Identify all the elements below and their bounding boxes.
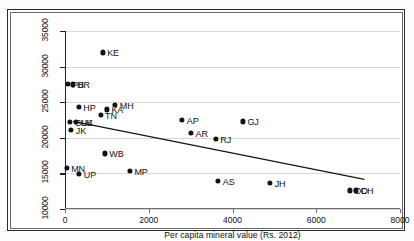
data-point-label-mp: MP [134,167,147,177]
data-point-mn[interactable] [64,165,69,170]
y-tick-label-35000: 35000 [40,13,50,47]
data-point-jh[interactable] [268,180,273,185]
x-axis-title: Per capita mineral value (Rs. 2012) [65,230,400,240]
y-tick-label-25000: 25000 [40,84,50,118]
data-point-label-as: AS [223,177,235,187]
x-tick-mark [400,209,401,213]
gridline-15000 [65,173,400,174]
y-tick-label-20000: 20000 [40,120,50,154]
x-tick-mark [149,209,150,213]
data-point-label-ke: KE [107,48,119,58]
y-tick-mark [60,173,65,174]
data-point-label-tn: TN [105,111,117,121]
x-tick-label-4000: 4000 [223,215,242,225]
data-point-up[interactable] [77,171,82,176]
y-tick-label-15000: 15000 [40,155,50,189]
data-point-wb[interactable] [102,151,107,156]
x-tick-label-0: 0 [63,215,68,225]
data-point-rj[interactable] [213,137,218,142]
x-tick-label-2000: 2000 [139,215,158,225]
y-tick-mark [60,31,65,32]
data-point-label-hp: HP [83,103,95,113]
data-point-label-ch: CH [361,186,374,196]
figure-frame: 100001500020000250003000035000 020004000… [7,9,405,231]
data-point-guj[interactable] [67,119,72,124]
data-point-label-up: UP [84,170,96,180]
data-point-label-wb: WB [109,149,123,159]
data-point-label-hr: HR [77,80,90,90]
data-point-gj[interactable] [240,119,245,124]
x-tick-mark [65,209,66,213]
x-tick-label-6000: 6000 [307,215,326,225]
data-point-label-gj: GJ [247,117,258,127]
data-point-label-ap: AP [187,116,199,126]
data-point-jk[interactable] [69,127,74,132]
figure-container: 100001500020000250003000035000 020004000… [0,0,414,241]
data-point-ap[interactable] [180,117,185,122]
plot-area: 100001500020000250003000035000 020004000… [65,31,400,209]
gridline-30000 [65,67,400,68]
y-tick-label-10000: 10000 [40,191,50,225]
y-tick-label-30000: 30000 [40,49,50,83]
data-point-label-jh: JH [275,179,286,189]
y-tick-mark [60,67,65,68]
y-axis-line [65,31,66,209]
gridline-20000 [65,138,400,139]
data-point-ar[interactable] [188,130,193,135]
data-point-od[interactable] [347,188,352,193]
data-point-as[interactable] [216,178,221,183]
x-tick-label-8000: 8000 [391,215,410,225]
gridline-35000 [65,31,400,32]
data-point-ke[interactable] [100,50,105,55]
data-point-label-jk: JK [76,126,86,136]
x-tick-mark [316,209,317,213]
data-point-mp[interactable] [127,168,132,173]
x-tick-mark [233,209,234,213]
data-point-tn[interactable] [98,112,103,117]
y-tick-mark [60,138,65,139]
data-point-hp[interactable] [76,104,81,109]
data-point-label-ar: AR [196,129,208,139]
y-tick-mark [60,102,65,103]
data-point-label-rj: RJ [220,135,231,145]
